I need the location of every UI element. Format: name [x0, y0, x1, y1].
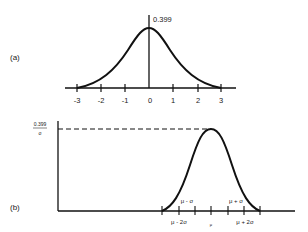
panel-b-lower-labels: μ - 2σ μ μ + 2σ — [171, 219, 254, 227]
panel-b-curve — [162, 129, 260, 211]
figure: (a) 0.399 -3 -2 -1 0 1 2 3 (b) 0.399 σ μ… — [0, 0, 308, 232]
panel-a-peak-label: 0.399 — [153, 15, 172, 24]
svg-text:1: 1 — [171, 96, 175, 105]
svg-text:0: 0 — [148, 96, 152, 105]
svg-text:μ - 2σ: μ - 2σ — [171, 219, 187, 225]
svg-text:μ - σ: μ - σ — [181, 198, 194, 204]
panel-a-label: (a) — [10, 53, 20, 62]
panel-b-upper-labels: μ - σ μ + σ — [181, 198, 244, 204]
svg-text:3: 3 — [219, 96, 223, 105]
svg-text:μ: μ — [210, 222, 213, 227]
svg-text:μ + σ: μ + σ — [229, 198, 243, 204]
panel-a-tick-labels: -3 -2 -1 0 1 2 3 — [74, 96, 223, 105]
svg-text:μ + 2σ: μ + 2σ — [236, 219, 254, 225]
panel-b-y-label-num: 0.399 — [34, 121, 47, 127]
svg-text:-3: -3 — [74, 96, 81, 105]
panel-b-label: (b) — [10, 203, 20, 212]
panel-b-y-label-den: σ — [38, 130, 42, 136]
svg-text:2: 2 — [196, 96, 200, 105]
svg-text:-2: -2 — [98, 96, 105, 105]
svg-text:-1: -1 — [122, 96, 129, 105]
